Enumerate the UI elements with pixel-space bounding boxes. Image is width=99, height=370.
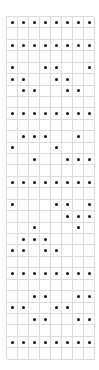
dot-marker (44, 66, 47, 69)
dot-marker (77, 272, 80, 275)
dot-marker (11, 203, 14, 206)
grid-cell (51, 28, 62, 39)
dot-marker (88, 66, 91, 69)
grid-cell (51, 51, 62, 62)
dot-marker (77, 21, 80, 24)
dot-marker (44, 135, 47, 138)
grid-cell (29, 74, 40, 85)
grid-cell (18, 154, 29, 165)
grid-cell (40, 143, 51, 154)
grid-cell (18, 245, 29, 256)
grid-cell (62, 74, 73, 85)
dot-marker (22, 249, 25, 252)
grid-cell (7, 97, 18, 108)
grid-cell (7, 268, 18, 279)
dot-marker (44, 21, 47, 24)
grid-cell (7, 200, 18, 211)
dot-marker (66, 306, 69, 309)
dot-marker (33, 238, 36, 241)
grid-cell (7, 234, 18, 245)
grid-cell (51, 97, 62, 108)
grid-cell (29, 337, 40, 348)
dot-marker (22, 341, 25, 344)
grid-cell (7, 154, 18, 165)
grid-cell (84, 40, 95, 51)
grid-cell (84, 325, 95, 336)
grid-cell (73, 245, 84, 256)
dot-marker (55, 306, 58, 309)
dot-marker (22, 238, 25, 241)
grid-cell (51, 348, 62, 359)
dot-marker (66, 21, 69, 24)
grid-cell (51, 257, 62, 268)
grid-cell (73, 291, 84, 302)
grid-cell (40, 86, 51, 97)
grid-cell (51, 245, 62, 256)
grid-cell (84, 28, 95, 39)
grid-cell (40, 257, 51, 268)
grid-cell (84, 86, 95, 97)
grid-cell (40, 40, 51, 51)
grid-cell (29, 120, 40, 131)
dot-marker (77, 226, 80, 229)
grid-cell (84, 257, 95, 268)
dot-marker (88, 215, 91, 218)
grid-cell (62, 291, 73, 302)
grid-cell (51, 108, 62, 119)
grid-cell (84, 120, 95, 131)
dot-marker (77, 158, 80, 161)
dot-marker (88, 318, 91, 321)
grid-cell (29, 291, 40, 302)
grid-cell (73, 314, 84, 325)
grid-cell (73, 63, 84, 74)
grid-cell (18, 74, 29, 85)
grid-cell (29, 40, 40, 51)
dot-marker (11, 21, 14, 24)
grid-cell (29, 348, 40, 359)
grid-cell (18, 177, 29, 188)
grid-cell (40, 63, 51, 74)
grid-cell (62, 280, 73, 291)
grid-cell (29, 188, 40, 199)
grid-cell (18, 325, 29, 336)
dot-marker (77, 181, 80, 184)
grid-cell (62, 40, 73, 51)
dot-marker (77, 318, 80, 321)
grid-cell (73, 17, 84, 28)
dot-marker (88, 181, 91, 184)
grid-cell (73, 348, 84, 359)
grid-cell (29, 257, 40, 268)
grid-cell (51, 120, 62, 131)
grid-cell (84, 74, 95, 85)
grid-cell (84, 131, 95, 142)
dot-marker (11, 249, 14, 252)
grid-cell (40, 280, 51, 291)
dot-marker (66, 181, 69, 184)
grid-cell (18, 63, 29, 74)
dot-marker (11, 341, 14, 344)
grid-cell (51, 280, 62, 291)
grid-cell (7, 348, 18, 359)
grid-cell (62, 245, 73, 256)
grid-cell (51, 223, 62, 234)
grid-cell (84, 223, 95, 234)
grid-cell (40, 325, 51, 336)
grid-cell (51, 131, 62, 142)
grid-cell (40, 314, 51, 325)
dot-marker (55, 78, 58, 81)
dot-marker (22, 272, 25, 275)
grid-cell (18, 257, 29, 268)
grid-cell (62, 188, 73, 199)
dot-marker (66, 78, 69, 81)
grid-cell (7, 325, 18, 336)
grid-cell (73, 188, 84, 199)
dot-marker (88, 44, 91, 47)
grid-cell (62, 86, 73, 97)
grid-cell (18, 303, 29, 314)
grid-cell (62, 223, 73, 234)
grid-cell (29, 325, 40, 336)
grid-cell (62, 108, 73, 119)
grid-cell (62, 325, 73, 336)
dot-marker (55, 44, 58, 47)
grid-cell (18, 143, 29, 154)
